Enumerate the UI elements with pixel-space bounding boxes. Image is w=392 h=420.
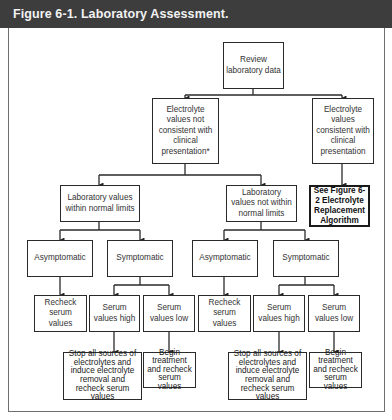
node-serum-high-right: Serum values high bbox=[253, 295, 305, 332]
node-stop-sources-left: Stop all sources of electrolytes and ind… bbox=[63, 352, 142, 400]
node-within-normal-limits: Laboratory values within normal limits bbox=[60, 185, 140, 222]
node-symptomatic-right: Symptomatic bbox=[273, 240, 339, 277]
node-stop-sources-right: Stop all sources of electrolytes and ind… bbox=[228, 352, 307, 400]
node-symptomatic-left: Symptomatic bbox=[107, 240, 173, 277]
node-review-lab-data: Review laboratory data bbox=[223, 42, 284, 89]
node-serum-low-left: Serum values low bbox=[143, 295, 195, 332]
node-consistent: Electrolyte values consistent with clini… bbox=[312, 98, 374, 164]
node-serum-low-right: Serum values low bbox=[308, 295, 360, 332]
node-asymptomatic-left: Asymptomatic bbox=[27, 240, 93, 277]
node-serum-high-left: Serum values high bbox=[89, 295, 140, 332]
node-asymptomatic-right: Asymptomatic bbox=[192, 240, 258, 277]
node-not-consistent: Electrolyte values not consistent with c… bbox=[152, 98, 219, 164]
node-not-within-normal-limits: Laboratory values not within normal limi… bbox=[226, 185, 297, 222]
node-begin-treatment-right: Begin treatment and recheck serum values bbox=[309, 352, 362, 388]
node-begin-treatment-left: Begin treatment and recheck serum values bbox=[143, 352, 196, 388]
node-recheck-left: Recheck serum values bbox=[34, 295, 87, 332]
node-recheck-right: Recheck serum values bbox=[198, 295, 251, 332]
node-see-figure-6-2: See Figure 6-2 Electrolyte Replacement A… bbox=[309, 185, 370, 227]
